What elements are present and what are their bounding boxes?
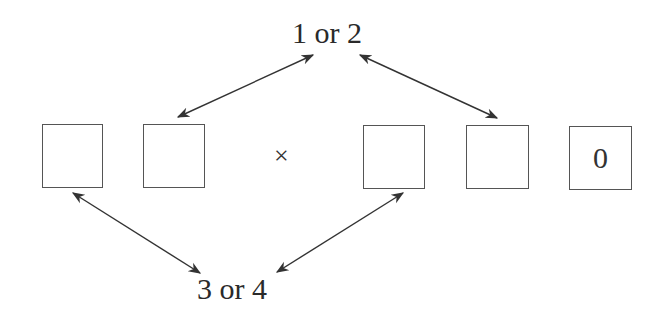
digit-box-1 (42, 124, 103, 188)
diagram-canvas: 1 or 2 3 or 4 × 0 (0, 0, 667, 323)
multiplication-sign: × (274, 143, 289, 169)
top-label: 1 or 2 (292, 18, 362, 48)
arrow-bottom-to-box-1 (73, 193, 200, 273)
digit-box-2 (143, 124, 205, 188)
arrow-top-to-box-4 (360, 55, 497, 118)
digit-box-5: 0 (569, 126, 632, 190)
arrow-bottom-to-box-3 (277, 193, 403, 272)
digit-box-3 (363, 125, 425, 189)
bottom-label: 3 or 4 (197, 274, 267, 304)
arrow-top-to-box-2 (178, 55, 313, 117)
digit-box-4 (466, 125, 529, 189)
